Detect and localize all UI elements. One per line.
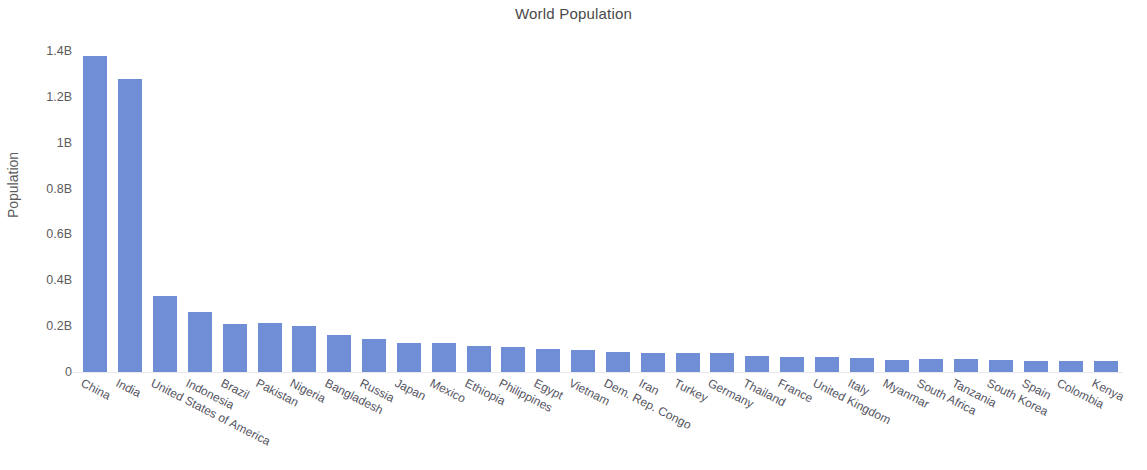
y-tick-label: 0.2B xyxy=(2,319,72,333)
y-tick-label: 1.4B xyxy=(2,44,72,58)
y-tick-label: 0 xyxy=(2,365,72,379)
bar[interactable] xyxy=(850,358,874,372)
bar[interactable] xyxy=(327,335,351,372)
y-tick-label: 1B xyxy=(2,136,72,150)
y-tick-label: 0.6B xyxy=(2,227,72,241)
bar[interactable] xyxy=(885,360,909,372)
bar[interactable] xyxy=(432,343,456,372)
bar[interactable] xyxy=(606,352,630,372)
bar[interactable] xyxy=(1024,361,1048,372)
bar[interactable] xyxy=(501,347,525,372)
bar[interactable] xyxy=(118,79,142,372)
bar[interactable] xyxy=(641,353,665,372)
x-axis-labels: ChinaIndiaUnited States of AmericaIndone… xyxy=(78,376,1123,470)
bar[interactable] xyxy=(223,324,247,372)
bar[interactable] xyxy=(362,339,386,372)
bar[interactable] xyxy=(780,357,804,372)
bar[interactable] xyxy=(954,359,978,372)
bar[interactable] xyxy=(153,296,177,372)
bar[interactable] xyxy=(536,349,560,372)
bar[interactable] xyxy=(571,350,595,372)
bar[interactable] xyxy=(815,357,839,372)
bar[interactable] xyxy=(1094,361,1118,372)
x-tick-label: Japan xyxy=(393,376,428,403)
bar[interactable] xyxy=(188,312,212,372)
bar[interactable] xyxy=(676,353,700,372)
x-axis-baseline xyxy=(72,372,1123,373)
bar[interactable] xyxy=(292,326,316,372)
chart-title: World Population xyxy=(0,5,1147,22)
bar[interactable] xyxy=(710,353,734,372)
y-tick-label: 0.4B xyxy=(2,273,72,287)
y-axis-ticks: 1.4B1.2B1B0.8B0.6B0.4B0.2B0 xyxy=(0,0,72,470)
bar[interactable] xyxy=(1059,361,1083,372)
bar[interactable] xyxy=(919,359,943,372)
bar[interactable] xyxy=(989,360,1013,372)
y-tick-label: 1.2B xyxy=(2,90,72,104)
y-tick-label: 0.8B xyxy=(2,182,72,196)
bars-layer xyxy=(78,51,1123,372)
x-tick-label: Turkey xyxy=(671,376,710,405)
x-tick-label: Mexico xyxy=(427,376,467,406)
bar[interactable] xyxy=(397,343,421,372)
bar[interactable] xyxy=(745,356,769,372)
bar[interactable] xyxy=(258,323,282,372)
bar[interactable] xyxy=(83,56,107,372)
bar-chart: World Population Population 1.4B1.2B1B0.… xyxy=(0,0,1147,470)
x-tick-label: India xyxy=(114,376,144,400)
x-tick-label: China xyxy=(79,376,113,403)
bar[interactable] xyxy=(467,346,491,372)
